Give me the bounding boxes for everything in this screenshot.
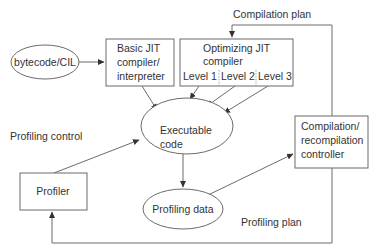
profiling-plan-label: Profiling plan — [241, 216, 302, 228]
controller-line1: Compilation/ — [301, 120, 359, 132]
edge-profiler-to-executable — [54, 140, 139, 173]
executable-line1: Executable — [160, 124, 212, 136]
profiling-data-label: Profiling data — [152, 203, 213, 215]
edge-profiling-data-to-controller — [206, 154, 293, 196]
node-bytecode: bytecode/CIL — [11, 45, 79, 79]
node-profiler: Profiler — [20, 173, 87, 210]
edge-level1-to-executable — [190, 86, 199, 99]
basic-jit-line1: Basic JIT — [117, 42, 161, 54]
basic-jit-line2: compiler/ — [117, 56, 160, 68]
node-profiling-data: Profiling data — [143, 189, 223, 229]
node-optimizing-jit: Optimizing JIT compiler Level 1 Level 2 … — [180, 39, 293, 86]
controller-line2: recompilation — [301, 134, 364, 146]
optimizing-jit-line2: compiler — [203, 55, 243, 67]
level-2-label: Level 2 — [221, 70, 255, 82]
optimizing-jit-line1: Optimizing JIT — [203, 42, 271, 54]
profiler-label: Profiler — [36, 185, 70, 197]
level-1-label: Level 1 — [183, 70, 217, 82]
edge-level3-to-executable — [224, 86, 268, 113]
basic-jit-line3: interpreter — [117, 70, 165, 82]
level-3-label: Level 3 — [258, 70, 292, 82]
controller-line3: controller — [301, 148, 345, 160]
executable-line2: code — [160, 138, 183, 150]
jit-compilation-diagram: bytecode/CIL Basic JIT compiler/ interpr… — [0, 0, 377, 252]
compilation-plan-label: Compilation plan — [233, 8, 311, 20]
bytecode-label: bytecode/CIL — [14, 56, 76, 68]
node-executable-code: Executable code — [141, 98, 233, 154]
node-controller: Compilation/ recompilation controller — [295, 116, 368, 168]
node-basic-jit: Basic JIT compiler/ interpreter — [106, 39, 174, 86]
profiling-control-label: Profiling control — [10, 130, 82, 142]
